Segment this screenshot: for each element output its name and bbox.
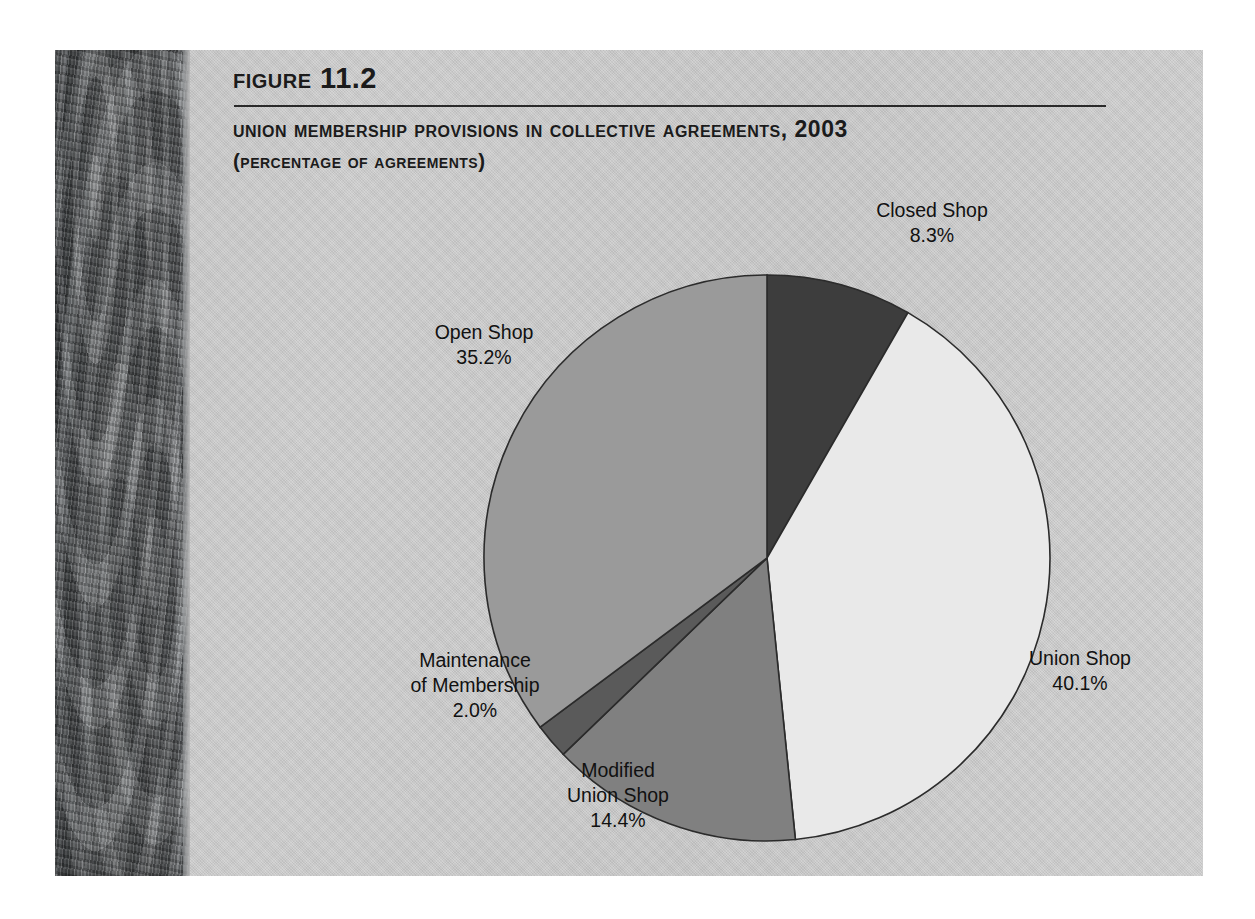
pie-label-maintenance-line1: Maintenance <box>419 649 531 671</box>
pie-label-maintenance-line2: of Membership <box>350 673 600 698</box>
pie-label-maintenance-value: 2.0% <box>350 698 600 723</box>
pie-chart: Closed Shop 8.3% Union Shop 40.1% Modifi… <box>190 50 1203 876</box>
figure-panel: Figure 11.2 Union Membership Provisions … <box>55 50 1203 876</box>
pie-label-closed-shop: Closed Shop 8.3% <box>832 198 1032 248</box>
pie-label-closed-shop-name: Closed Shop <box>876 199 988 221</box>
pie-label-union-shop-value: 40.1% <box>980 671 1180 696</box>
pie-label-modified-union-shop-line2: Union Shop <box>508 783 728 808</box>
pie-label-maintenance-of-membership: Maintenance of Membership 2.0% <box>350 648 600 723</box>
pie-label-open-shop: Open Shop 35.2% <box>384 320 584 370</box>
pie-label-union-shop: Union Shop 40.1% <box>980 646 1180 696</box>
pie-label-modified-union-shop-value: 14.4% <box>508 808 728 833</box>
pie-label-modified-union-shop-line1: Modified <box>581 759 655 781</box>
figure-content-area: Figure 11.2 Union Membership Provisions … <box>190 50 1203 876</box>
pie-label-union-shop-name: Union Shop <box>1029 647 1131 669</box>
pie-chart-svg <box>190 50 1203 876</box>
book-spine-texture-strip <box>55 50 190 876</box>
spine-edge-highlight <box>183 50 190 876</box>
pie-label-modified-union-shop: Modified Union Shop 14.4% <box>508 758 728 833</box>
pie-label-closed-shop-value: 8.3% <box>832 223 1032 248</box>
pie-label-open-shop-value: 35.2% <box>384 345 584 370</box>
pie-label-open-shop-name: Open Shop <box>435 321 534 343</box>
